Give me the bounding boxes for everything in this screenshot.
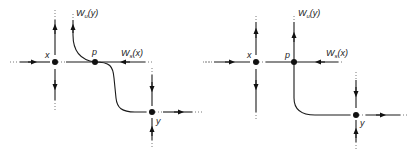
label-y-right: y <box>359 118 365 128</box>
point-x-right <box>253 59 259 65</box>
label-ws-x-right: Ws(x) <box>326 48 348 59</box>
label-p: p <box>91 47 97 57</box>
saddle-x: x <box>10 10 66 112</box>
label-x-right: x <box>246 50 252 60</box>
saddle-x-right: x <box>205 16 266 120</box>
left-diagram: x p Wu(y) Ws(x) <box>10 8 210 148</box>
heteroclinic-diagrams: x p Wu(y) Ws(x) <box>0 0 413 158</box>
point-y-right <box>353 112 359 118</box>
label-p-right: p <box>284 50 290 60</box>
point-p <box>92 59 98 65</box>
point-p-right <box>291 59 297 65</box>
right-diagram: x p Wu(y) Ws(x) y <box>205 8 408 150</box>
label-ws-x: Ws(x) <box>121 48 143 59</box>
p-to-y-curve-right <box>294 62 350 115</box>
label-x: x <box>44 50 50 60</box>
label-wu-y: Wu(y) <box>76 8 98 19</box>
label-wu-y-right: Wu(y) <box>298 8 320 19</box>
saddle-y: y <box>146 68 202 148</box>
point-y <box>149 109 155 115</box>
point-x <box>52 59 58 65</box>
p-to-y-curve <box>95 62 146 112</box>
label-y: y <box>155 116 161 126</box>
saddle-y-right: y <box>350 72 408 150</box>
